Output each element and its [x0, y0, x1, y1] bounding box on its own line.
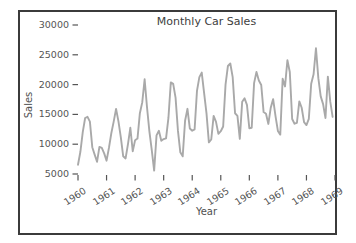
y-tick-label: 15000 — [27, 108, 69, 120]
y-tick-label: 30000 — [27, 19, 69, 31]
chart-title: Monthly Car Sales — [78, 15, 335, 28]
y-tick-label: 20000 — [27, 79, 69, 91]
y-tick-label: 5000 — [27, 168, 69, 180]
y-tick-label: 25000 — [27, 49, 69, 61]
figure: Monthly Car Sales Sales Year 50001000015… — [0, 0, 356, 243]
sales-series-line — [78, 48, 333, 170]
y-tick-label: 10000 — [27, 138, 69, 150]
